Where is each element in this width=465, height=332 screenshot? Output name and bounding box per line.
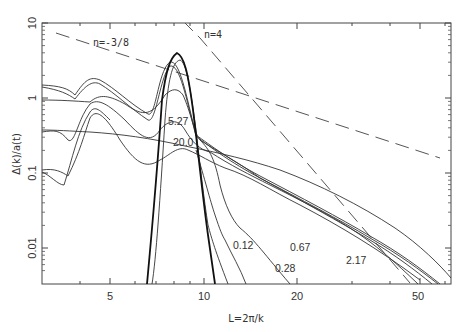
reference-line-n-neg-3-8 [56,33,440,158]
label-2-17: 2.17 [346,254,367,266]
x-tick-label-10: 10 [198,290,210,302]
label-n-neg-3-8: n=-3/8 [93,37,129,48]
log-log-plot: 5 10 20 50 10 1 0.1 0.01 L=2π/k Δ(k)/a(t… [0,0,465,332]
curve-late-time [42,130,451,278]
curve-early-left [42,109,110,185]
label-20-0: 20.0 [173,136,194,148]
label-0-28: 0.28 [275,262,296,274]
y-tick-label-1: 1 [26,95,38,101]
label-5-27: 5.27 [168,115,189,127]
curve-217 [42,90,432,284]
label-0-67: 0.67 [290,241,311,253]
x-tick-label-50: 50 [412,290,424,302]
label-n-4: n=4 [204,29,222,40]
x-ticks [80,23,445,284]
x-tick-label-5: 5 [107,290,113,302]
x-tick-label-20: 20 [291,290,303,302]
x-axis-title: L=2π/k [228,313,264,324]
y-tick-label-0.1: 0.1 [26,165,38,180]
initial-spectrum-curve [147,53,215,284]
y-tick-label-10: 10 [26,17,38,29]
y-tick-label-0.01: 0.01 [26,237,38,258]
label-0-12: 0.12 [233,239,254,251]
y-major-ticks [42,23,451,248]
y-axis-title: Δ(k)/a(t) [11,133,22,175]
